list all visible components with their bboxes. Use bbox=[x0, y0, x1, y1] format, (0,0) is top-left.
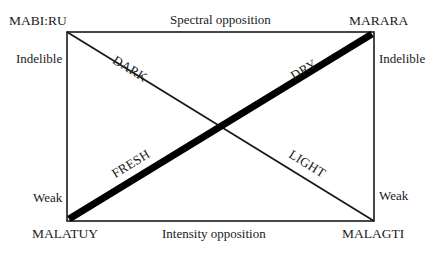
left-top-label: Indelible bbox=[16, 52, 62, 66]
diagram-lines bbox=[0, 0, 440, 256]
left-bottom-label: Weak bbox=[33, 191, 62, 205]
bottom-edge-label: Intensity opposition bbox=[162, 227, 266, 241]
right-bottom-label: Weak bbox=[379, 189, 408, 203]
corner-bottom-left: MALATUY bbox=[32, 227, 98, 241]
corner-top-right: MARARA bbox=[349, 14, 408, 28]
corner-top-left: MABI:RU bbox=[9, 14, 67, 28]
corner-bottom-right: MALAGTI bbox=[342, 227, 404, 241]
right-top-label: Indelible bbox=[379, 52, 425, 66]
top-edge-label: Spectral opposition bbox=[170, 13, 271, 27]
color-opposition-diagram: MABI:RU MARARA MALATUY MALAGTI Spectral … bbox=[0, 0, 440, 256]
